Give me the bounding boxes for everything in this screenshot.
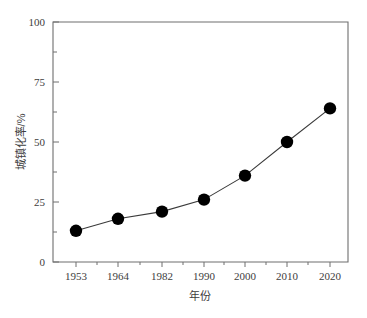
- series-line-urbanization: [76, 108, 330, 230]
- x-tick-label-1982: 1982: [151, 270, 173, 282]
- y-tick-label-50: 50: [34, 136, 46, 148]
- y-axis-major-ticks: [53, 22, 59, 262]
- x-axis-title: 年份: [189, 289, 211, 302]
- data-point-2020: [324, 102, 336, 114]
- x-tick-label-1990: 1990: [193, 270, 216, 282]
- data-point-1990: [198, 193, 210, 205]
- data-point-1953: [70, 225, 82, 237]
- y-tick-label-75: 75: [34, 76, 46, 88]
- plot-frame: [53, 22, 348, 262]
- urbanization-rate-line-chart: 0 25 50 75 100 1953 1964 1982 1990 2000 …: [0, 0, 367, 318]
- axes-border: [53, 22, 348, 262]
- data-point-1982: [156, 205, 168, 217]
- data-point-1964: [112, 213, 124, 225]
- y-tick-label-0: 0: [40, 256, 46, 268]
- y-tick-label-25: 25: [34, 196, 46, 208]
- y-axis-title: 城镇化率/%: [14, 113, 27, 170]
- x-tick-label-2010: 2010: [276, 270, 299, 282]
- x-tick-label-1953: 1953: [65, 270, 88, 282]
- x-axis-major-ticks: [76, 262, 330, 267]
- y-tick-label-100: 100: [29, 16, 46, 28]
- data-point-2010: [281, 136, 293, 148]
- x-tick-label-2020: 2020: [319, 270, 342, 282]
- chart-canvas: 0 25 50 75 100 1953 1964 1982 1990 2000 …: [0, 0, 367, 318]
- x-tick-label-1964: 1964: [107, 270, 130, 282]
- data-point-2000: [239, 169, 251, 181]
- series-markers-urbanization: [70, 102, 336, 237]
- x-tick-label-2000: 2000: [234, 270, 257, 282]
